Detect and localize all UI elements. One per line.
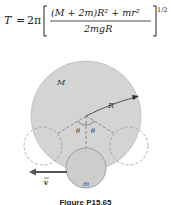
label-theta-left: θ	[76, 127, 80, 135]
label-big-mass: M	[56, 78, 66, 87]
pendulum-figure: M R θ θ m v	[0, 0, 171, 205]
label-theta-right: θ	[91, 127, 95, 135]
label-radius: R	[107, 101, 114, 110]
label-small-mass: m	[83, 180, 89, 188]
label-velocity: v	[43, 178, 49, 187]
velocity-arrowhead-icon	[29, 169, 36, 176]
figure-caption: Figure P15.65	[0, 198, 171, 205]
